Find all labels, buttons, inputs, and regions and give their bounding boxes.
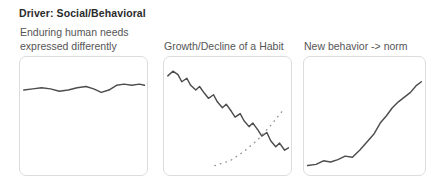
spark-path-enduring-need: [24, 84, 145, 92]
chart-card-growth-decline-habit: [163, 56, 292, 176]
slide-canvas: Driver: Social/Behavioral Enduring human…: [0, 0, 443, 190]
spark-path-new-behavior-adoption: [308, 82, 422, 166]
spark-path-declining-habit: [168, 71, 289, 150]
panel-new-behavior-norm: New behavior -> norm: [303, 26, 426, 176]
panel-growth-decline-habit: Growth/Decline of a Habit: [163, 26, 292, 176]
panel-label-new-behavior-norm: New behavior -> norm: [304, 26, 426, 56]
panel-label-enduring-human-needs: Enduring human needs expressed different…: [20, 26, 148, 56]
spark-path-emerging-habit: [215, 111, 282, 165]
sparkline-new-behavior-norm: [304, 57, 425, 175]
panel-label-growth-decline-habit: Growth/Decline of a Habit: [164, 26, 292, 56]
sparkline-enduring-human-needs: [20, 57, 147, 175]
panel-group: Enduring human needs expressed different…: [0, 0, 443, 190]
sparkline-growth-decline-habit: [164, 57, 291, 175]
panel-enduring-human-needs: Enduring human needs expressed different…: [19, 26, 148, 176]
chart-card-enduring-human-needs: [19, 56, 148, 176]
chart-card-new-behavior-norm: [303, 56, 426, 176]
